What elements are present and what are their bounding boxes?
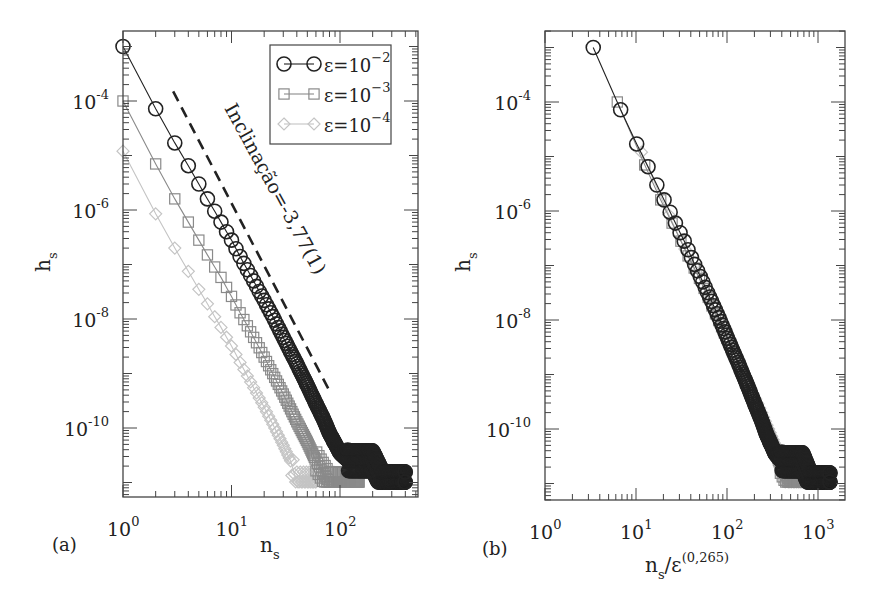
y-tick-label: 10-4 (494, 88, 531, 114)
x-tick-label: 102 (324, 514, 356, 540)
y-tick-label: 10-4 (72, 87, 109, 113)
x-tick-label: 100 (107, 514, 139, 540)
panel-b-y-tick-labels: 10-410-610-810-10 (486, 88, 531, 441)
panel-b-label: (b) (482, 538, 508, 559)
legend: ε=10−2ε=10−3ε=10−4 (270, 45, 391, 144)
y-tick-label: 10-6 (72, 196, 109, 222)
x-tick-label: 102 (711, 517, 743, 543)
collapsed-series-circle (586, 41, 837, 490)
panel-a: 100101102 10-410-610-810-10 Inclinação=-… (31, 31, 418, 562)
panel-b-x-axis-label: ns/ε(0,265) (645, 550, 729, 582)
panel-b-y-axis-label: hs (451, 252, 480, 272)
x-tick-label: 103 (802, 517, 834, 543)
panel-b: 100101102103 10-410-610-810-10 hs ns/ε(0… (451, 31, 845, 582)
y-tick-label: 10-10 (486, 415, 531, 441)
collapsed-series-diamond (635, 146, 809, 488)
x-tick-label: 100 (529, 517, 561, 543)
y-tick-label: 10-8 (72, 305, 109, 331)
y-tick-label: 10-10 (64, 414, 109, 440)
panel-a-y-tick-labels: 10-410-610-810-10 (64, 87, 109, 440)
panel-a-x-axis-label: ns (260, 533, 280, 562)
panel-a-x-tick-labels: 100101102 (107, 514, 356, 540)
panel-a-y-axis-label: hs (31, 252, 60, 272)
x-tick-label: 101 (216, 514, 248, 540)
x-tick-label: 101 (620, 517, 652, 543)
y-tick-label: 10-8 (494, 306, 531, 332)
panel-a-label: (a) (52, 534, 77, 555)
panel-b-x-tick-labels: 100101102103 (529, 517, 834, 543)
figure: 100101102 10-410-610-810-10 Inclinação=-… (0, 0, 869, 600)
y-tick-label: 10-6 (494, 197, 531, 223)
panel-b-data-series (586, 41, 837, 490)
